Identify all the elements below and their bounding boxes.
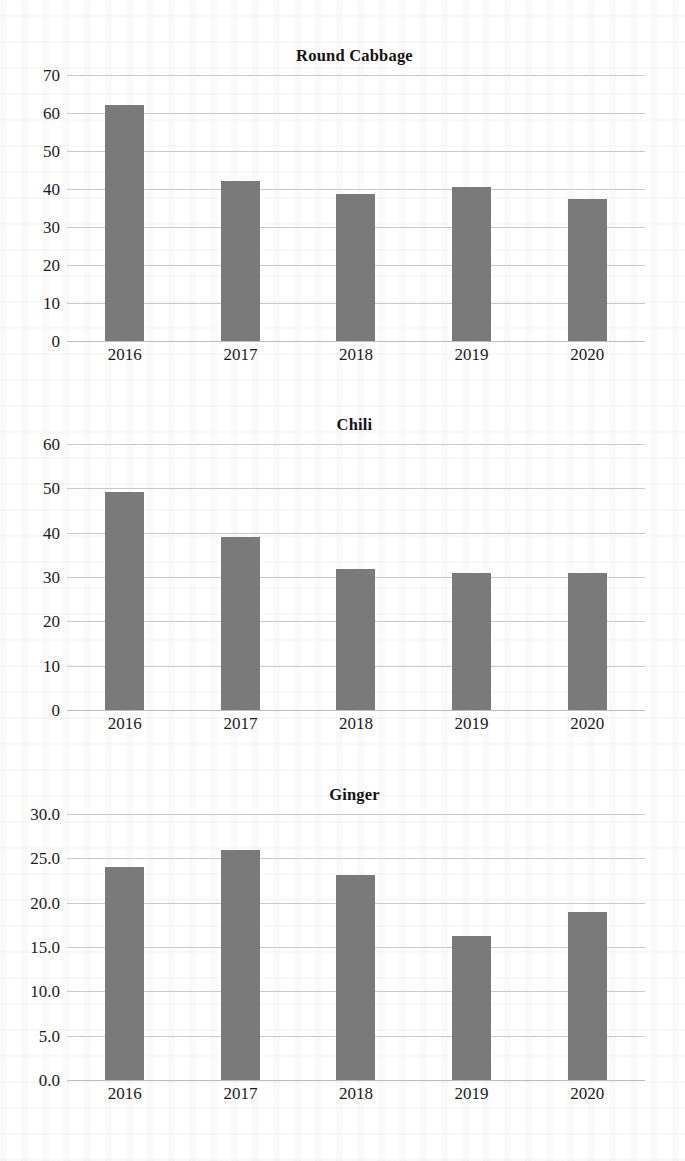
y-tick-label: 0.0	[39, 1072, 60, 1089]
bar	[336, 875, 375, 1080]
y-tick-label: 20.0	[30, 894, 60, 911]
y-tick-label: 70	[43, 67, 60, 84]
bar-slot	[183, 444, 299, 710]
plot-area: 706050403020100 20162017201820192020	[0, 75, 685, 363]
bars-host	[67, 444, 645, 710]
y-tick-label: 40	[43, 181, 60, 198]
bar-series	[67, 75, 645, 341]
bars-host	[67, 814, 645, 1080]
y-tick-label: 50	[43, 143, 60, 160]
chart-title: Round Cabbage	[0, 46, 685, 66]
chart-chili: Chili 6050403020100 20162017201820192020	[0, 415, 685, 732]
bar-slot	[67, 75, 183, 341]
y-tick-label: 40	[43, 524, 60, 541]
x-tick-label: 2017	[183, 345, 299, 365]
y-tick-label: 30	[43, 219, 60, 236]
bar	[568, 912, 607, 1080]
bar-slot	[529, 814, 645, 1080]
y-tick-label: 25.0	[30, 850, 60, 867]
y-tick-label: 10	[43, 657, 60, 674]
plot-area: 6050403020100 20162017201820192020	[0, 444, 685, 732]
bar	[452, 573, 491, 710]
bar	[336, 194, 375, 341]
y-tick-label: 5.0	[39, 1027, 60, 1044]
chart-round-cabbage: Round Cabbage 706050403020100 2016201720…	[0, 46, 685, 363]
bar-slot	[298, 814, 414, 1080]
x-tick-label: 2017	[183, 1084, 299, 1104]
plot-area: 30.025.020.015.010.05.00.0 2016201720182…	[0, 814, 685, 1102]
bar	[105, 492, 144, 710]
axis-line-zero	[67, 1080, 645, 1081]
x-tick-label: 2017	[183, 714, 299, 734]
x-tick-label: 2016	[67, 1084, 183, 1104]
y-tick-label: 20	[43, 613, 60, 630]
bars-host	[67, 75, 645, 341]
bar	[568, 199, 607, 341]
y-tick-label: 10.0	[30, 983, 60, 1000]
x-tick-label: 2018	[298, 1084, 414, 1104]
x-tick-label: 2018	[298, 714, 414, 734]
bar-slot	[298, 75, 414, 341]
y-axis-labels: 6050403020100	[0, 444, 60, 710]
bar-slot	[298, 444, 414, 710]
y-tick-label: 20	[43, 257, 60, 274]
y-axis-labels: 706050403020100	[0, 75, 60, 341]
bar	[452, 936, 491, 1080]
document-page: Round Cabbage 706050403020100 2016201720…	[0, 0, 685, 1161]
bar	[105, 867, 144, 1080]
y-tick-label: 30	[43, 569, 60, 586]
y-tick-label: 50	[43, 480, 60, 497]
y-tick-label: 30.0	[30, 806, 60, 823]
chart-ginger: Ginger 30.025.020.015.010.05.00.0 201620…	[0, 785, 685, 1102]
x-tick-label: 2019	[414, 714, 530, 734]
x-tick-label: 2016	[67, 345, 183, 365]
y-tick-label: 0	[52, 333, 61, 350]
x-axis-labels: 20162017201820192020	[67, 345, 645, 365]
bar-slot	[529, 75, 645, 341]
x-tick-label: 2020	[529, 345, 645, 365]
y-tick-label: 15.0	[30, 939, 60, 956]
x-tick-label: 2019	[414, 345, 530, 365]
x-tick-label: 2018	[298, 345, 414, 365]
bar	[105, 105, 144, 341]
bar-slot	[414, 75, 530, 341]
x-tick-label: 2020	[529, 1084, 645, 1104]
bar-slot	[529, 444, 645, 710]
x-axis-labels: 20162017201820192020	[67, 1084, 645, 1104]
bar	[568, 573, 607, 710]
y-tick-label: 10	[43, 295, 60, 312]
x-tick-label: 2019	[414, 1084, 530, 1104]
bar	[336, 569, 375, 710]
bar	[221, 537, 260, 710]
bar	[221, 181, 260, 341]
y-tick-label: 0	[52, 702, 61, 719]
x-tick-label: 2020	[529, 714, 645, 734]
bar	[221, 850, 260, 1080]
axis-line-zero	[67, 710, 645, 711]
bar-series	[67, 444, 645, 710]
x-tick-label: 2016	[67, 714, 183, 734]
bar-series	[67, 814, 645, 1080]
x-axis-labels: 20162017201820192020	[67, 714, 645, 734]
y-tick-label: 60	[43, 105, 60, 122]
bar-slot	[67, 444, 183, 710]
y-tick-label: 60	[43, 436, 60, 453]
axis-line-zero	[67, 341, 645, 342]
bar	[452, 187, 491, 341]
bar-slot	[183, 75, 299, 341]
y-axis-labels: 30.025.020.015.010.05.00.0	[0, 814, 60, 1080]
chart-title: Ginger	[0, 785, 685, 805]
bar-slot	[183, 814, 299, 1080]
bar-slot	[414, 814, 530, 1080]
chart-title: Chili	[0, 415, 685, 435]
bar-slot	[414, 444, 530, 710]
bar-slot	[67, 814, 183, 1080]
